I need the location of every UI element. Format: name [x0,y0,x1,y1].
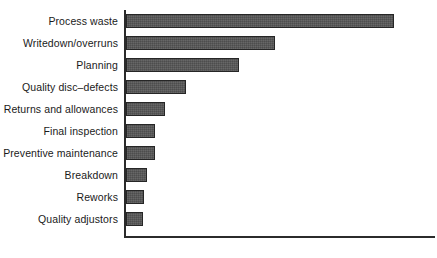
bar-category-label: Quality adjustors [38,208,118,230]
bar [126,212,143,226]
bar-row: Quality adjustors [0,208,437,230]
bar-category-label: Preventive maintenance [3,142,118,164]
bar-category-label: Quality disc–defects [22,76,118,98]
bar-category-label: Final inspection [43,120,118,142]
bar-category-label: Breakdown [65,164,118,186]
bar-category-label: Reworks [76,186,118,208]
bar [126,36,275,50]
bar [126,168,147,182]
bar-category-label: Writedown/overruns [23,32,118,54]
bar-row: Process waste [0,10,437,32]
bar-row: Planning [0,54,437,76]
bar-row: Reworks [0,186,437,208]
bar-row: Returns and allowances [0,98,437,120]
bar-row: Preventive maintenance [0,142,437,164]
bar-category-label: Planning [76,54,118,76]
bar [126,190,144,204]
bar-row: Quality disc–defects [0,76,437,98]
bar [126,146,155,160]
x-axis-line [124,236,435,238]
bar [126,58,239,72]
bar-category-label: Process waste [48,10,118,32]
bar-row: Final inspection [0,120,437,142]
bar [126,124,155,138]
bar [126,80,186,94]
bar-row: Breakdown [0,164,437,186]
bar [126,102,165,116]
bar-category-label: Returns and allowances [4,98,118,120]
bar [126,14,394,28]
plot-area: Process waste Writedown/overruns Plannin… [0,0,437,258]
bar-row: Writedown/overruns [0,32,437,54]
horizontal-bar-chart: Process waste Writedown/overruns Plannin… [0,0,437,258]
